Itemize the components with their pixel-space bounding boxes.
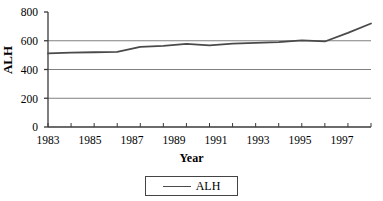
legend-label: ALH xyxy=(196,180,221,192)
series-line-alh xyxy=(48,24,371,54)
legend: ALH xyxy=(145,176,238,196)
line-chart: ALH 800 600 400 200 0 1983 1985 1987 198… xyxy=(0,0,383,201)
gridlines xyxy=(48,41,371,99)
x-tick-label-1993: 1993 xyxy=(236,134,280,146)
x-tick-label-1997: 1997 xyxy=(320,134,364,146)
x-tick-label-1995: 1995 xyxy=(278,134,322,146)
legend-line-swatch-icon xyxy=(163,186,191,187)
x-tick-label-1983: 1983 xyxy=(26,134,70,146)
plot-area xyxy=(0,0,383,201)
x-tick-label-1985: 1985 xyxy=(68,134,112,146)
x-tick-label-1991: 1991 xyxy=(194,134,238,146)
x-tick-label-1987: 1987 xyxy=(110,134,154,146)
x-axis-title: Year xyxy=(0,151,383,166)
data-series-alh xyxy=(48,24,371,54)
legend-item-alh: ALH xyxy=(146,177,237,195)
x-tick-label-1989: 1989 xyxy=(152,134,196,146)
